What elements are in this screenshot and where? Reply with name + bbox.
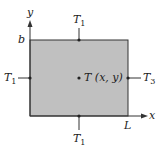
height-label: b (18, 34, 25, 45)
bottom-boundary-label: T1 (73, 133, 85, 147)
y-axis-label: y (27, 7, 33, 18)
x-axis-arrow-icon (141, 114, 148, 119)
width-label: L (124, 120, 131, 131)
top-boundary-label: T1 (73, 14, 85, 28)
y-axis-arrow-icon (28, 20, 33, 27)
left-boundary-label: T1 (4, 72, 16, 86)
interior-point (77, 76, 80, 79)
right-boundary-label: T3 (143, 72, 155, 86)
interior-point-label: T (x, y) (84, 72, 123, 83)
x-axis-label: x (149, 110, 155, 121)
